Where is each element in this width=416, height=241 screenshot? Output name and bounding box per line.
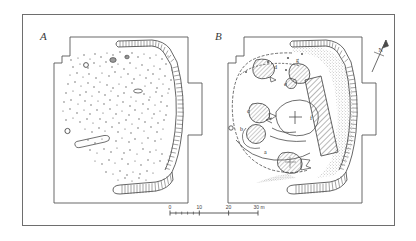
panel-b-feature-b-shape	[247, 125, 266, 144]
site-plan-figure: A	[0, 0, 416, 241]
panel-b-feature-e-shape	[286, 78, 297, 89]
feature-label-f: f	[310, 115, 312, 121]
scale-tick-30: 30 m	[253, 204, 264, 210]
panel-a-filled-feature-1	[110, 58, 116, 63]
scale-tick-0: 0	[169, 204, 172, 210]
north-arrow-label: N	[379, 47, 384, 53]
feature-label-b: b	[240, 126, 243, 132]
feature-label-e: e	[284, 81, 287, 87]
feature-label-c: c	[247, 108, 250, 114]
scale-tick-20: 20	[226, 204, 232, 210]
figure-root: A	[0, 0, 416, 241]
feature-label-d: d	[274, 64, 277, 70]
scale-tick-10: 10	[197, 204, 203, 210]
panel-a-label: A	[39, 30, 47, 42]
feature-label-a: a	[264, 149, 267, 155]
panel-b-feature-d-shape	[253, 59, 275, 79]
panel-b-label: B	[215, 30, 222, 42]
feature-label-g: g	[296, 57, 299, 63]
